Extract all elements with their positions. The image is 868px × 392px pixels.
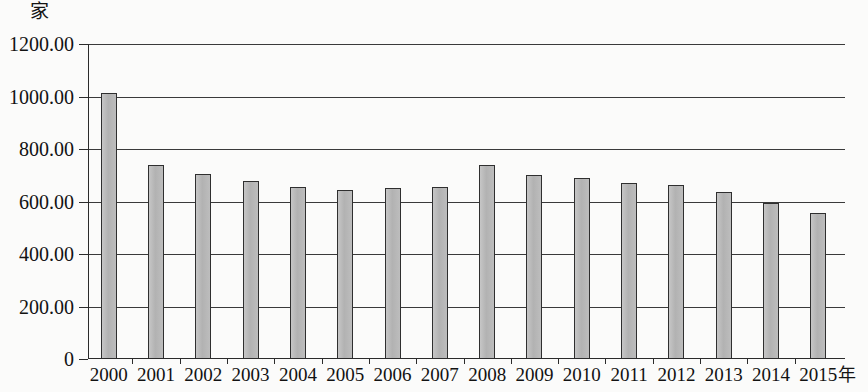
bar bbox=[148, 165, 164, 359]
y-tick-mark bbox=[79, 149, 88, 150]
y-tick-label: 600.00 bbox=[19, 190, 74, 214]
bar bbox=[432, 187, 448, 359]
bar bbox=[195, 174, 211, 359]
x-tick-label: 2003 bbox=[225, 364, 277, 386]
x-tick-label: 2012 bbox=[650, 364, 702, 386]
bar bbox=[668, 185, 684, 359]
y-tick-mark bbox=[79, 44, 88, 45]
bar bbox=[479, 165, 495, 359]
x-tick-label: 2009 bbox=[508, 364, 560, 386]
x-tick-label: 2010 bbox=[556, 364, 608, 386]
y-tick-mark bbox=[79, 97, 88, 98]
y-tick-mark bbox=[79, 359, 88, 360]
x-tick-label: 2001 bbox=[130, 364, 182, 386]
bar bbox=[101, 93, 117, 359]
x-tick-label: 2008 bbox=[461, 364, 513, 386]
bar-chart: 家 年 1200.001000.00800.00600.00400.00200.… bbox=[0, 0, 868, 392]
gridline bbox=[88, 44, 845, 45]
bar bbox=[716, 192, 732, 359]
y-axis-line bbox=[88, 44, 89, 359]
gridline bbox=[88, 97, 845, 98]
x-tick-label: 2013 bbox=[698, 364, 750, 386]
y-tick-label: 1000.00 bbox=[9, 85, 74, 109]
y-axis-unit-label: 家 bbox=[30, 0, 49, 22]
plot-area bbox=[88, 44, 845, 359]
x-tick-label: 2004 bbox=[272, 364, 324, 386]
bar bbox=[621, 183, 637, 359]
y-tick-mark bbox=[79, 307, 88, 308]
x-tick-label: 2000 bbox=[83, 364, 135, 386]
bar bbox=[243, 181, 259, 359]
bar bbox=[574, 178, 590, 359]
y-tick-label: 200.00 bbox=[19, 295, 74, 319]
x-tick-label: 2005 bbox=[319, 364, 371, 386]
bar bbox=[810, 213, 826, 359]
y-tick-label: 800.00 bbox=[19, 137, 74, 161]
bar bbox=[385, 188, 401, 359]
y-tick-label: 1200.00 bbox=[9, 32, 74, 56]
x-tick-label: 2011 bbox=[603, 364, 655, 386]
y-tick-mark bbox=[79, 202, 88, 203]
y-tick-mark bbox=[79, 254, 88, 255]
bar bbox=[526, 175, 542, 359]
bar bbox=[290, 187, 306, 359]
x-tick-label: 2007 bbox=[414, 364, 466, 386]
bar bbox=[337, 190, 353, 359]
x-tick-label: 2006 bbox=[367, 364, 419, 386]
x-axis-line bbox=[88, 358, 845, 359]
y-tick-label: 400.00 bbox=[19, 242, 74, 266]
y-tick-label: 0 bbox=[64, 347, 74, 371]
x-tick-label: 2014 bbox=[745, 364, 797, 386]
x-tick-label: 2015 bbox=[792, 364, 844, 386]
gridline bbox=[88, 149, 845, 150]
bar bbox=[763, 203, 779, 359]
x-tick-label: 2002 bbox=[177, 364, 229, 386]
